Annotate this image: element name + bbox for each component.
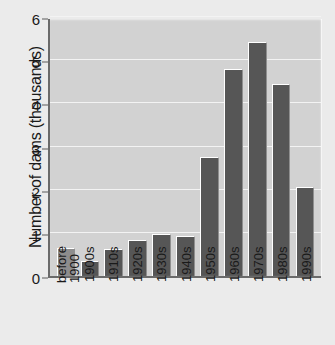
bar-slot: [197, 19, 221, 276]
x-tick-slot: 1930s: [148, 281, 172, 341]
bar[interactable]: [248, 42, 267, 276]
x-tick-label: 1990s: [300, 247, 313, 282]
bar-series: [50, 19, 321, 276]
x-tick-slot: 1950s: [197, 281, 221, 341]
bar-slot: [102, 19, 126, 276]
y-tick-label: 0: [32, 271, 40, 286]
y-tick-label: 6: [32, 12, 40, 27]
x-tick-slot: 1900s: [76, 281, 100, 341]
x-tick-slot: 1990s: [293, 281, 317, 341]
bar-chart-figure: Number of dams (thousands) 0123456 befor…: [0, 0, 335, 345]
bar-slot: [293, 19, 317, 276]
x-tick-slot: 1980s: [269, 281, 293, 341]
y-tick-label: 3: [32, 141, 40, 156]
bar-slot: [221, 19, 245, 276]
bar-slot: [126, 19, 150, 276]
y-tick-label: 4: [32, 98, 40, 113]
x-tick-slot: before1900: [52, 281, 76, 341]
x-tick-label: 1980s: [276, 247, 289, 282]
x-tick-label: 1940s: [180, 247, 193, 282]
y-tick-label: 1: [32, 227, 40, 242]
gridline: [50, 16, 321, 17]
y-tick-label: 5: [32, 55, 40, 70]
x-tick-slot: 1940s: [172, 281, 196, 341]
x-tick-label: before1900: [55, 246, 82, 283]
bar-slot: [78, 19, 102, 276]
bar-slot: [150, 19, 174, 276]
x-tick-label: 1930s: [155, 247, 168, 282]
x-tick-slot: 1960s: [221, 281, 245, 341]
x-tick-slot: 1970s: [245, 281, 269, 341]
bar[interactable]: [224, 69, 243, 276]
plot-area: [48, 19, 321, 278]
x-tick-label: 1920s: [131, 247, 144, 282]
x-tick-slot: 1920s: [124, 281, 148, 341]
x-tick-slot: 1910s: [100, 281, 124, 341]
x-tick-label: 1900s: [83, 247, 96, 282]
bar-slot: [245, 19, 269, 276]
x-tick-label: 1960s: [228, 247, 241, 282]
bar-slot: [174, 19, 198, 276]
x-axis-tick-labels: before19001900s1910s1920s1930s1940s1950s…: [48, 281, 321, 341]
bar-slot: [54, 19, 78, 276]
bar-slot: [269, 19, 293, 276]
x-tick-label: 1910s: [107, 247, 120, 282]
x-tick-label: 1970s: [252, 247, 265, 282]
y-tick-label: 2: [32, 184, 40, 199]
x-tick-label: 1950s: [204, 247, 217, 282]
y-axis-tick-labels: 0123456: [26, 12, 48, 284]
